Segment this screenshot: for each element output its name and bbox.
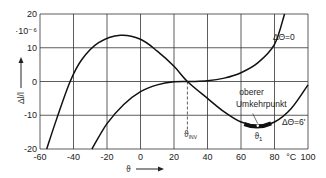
x-tick-label: 100 [300,152,315,162]
x-tick-label: 80 [269,152,279,162]
x-tick-label: -20 [100,152,113,162]
x-tick-label: 0 [138,152,143,162]
y-tick-label: -10 [24,110,37,120]
label-theta-inv-sub: INV [189,134,198,140]
axis-ticks: -60-40-20020406080100°C-20-1001020·10⁻⁶ [15,9,315,162]
y-tick-label: -20 [24,144,37,154]
x-tick-label: 20 [169,152,179,162]
label-delta-theta-6: ΔΘ=6' [282,117,306,127]
y-tick-label: 0 [32,77,37,87]
x-unit-label: °C [286,152,297,162]
thermal-expansion-chart: -60-40-20020406080100°C-20-1001020·10⁻⁶ … [0,0,326,178]
y-axis-label: Δl/l [16,92,26,104]
x-tick-label: -40 [67,152,80,162]
x-axis-arrow-head [158,167,164,172]
x-tick-label: 60 [236,152,246,162]
label-oberer: oberer [239,87,264,97]
y-tick-label: 20 [27,9,37,19]
reversal-point-marker [257,125,259,127]
y-axis-arrow-head [19,57,24,63]
label-theta-1: ϑ1 [254,131,263,142]
x-axis-label: ϑ [126,164,131,174]
label-theta-1-sub: 1 [259,136,263,142]
y-tick-label: 10 [27,43,37,53]
label-theta-inv: ϑINV [184,129,198,140]
label-delta-theta-0: ΔΘ=0 [273,32,295,42]
x-tick-label: 40 [202,152,212,162]
y-scale-note: ·10⁻⁶ [15,26,37,36]
label-umkehrpunkt: Umkehrpunkt [236,99,287,109]
